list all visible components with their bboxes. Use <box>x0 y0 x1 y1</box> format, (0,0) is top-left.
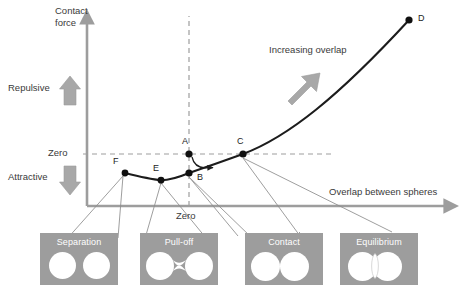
overlap-lens <box>340 233 418 285</box>
point-B <box>185 169 192 176</box>
point-A <box>185 150 192 157</box>
panel-equilibrium: Equilibrium <box>340 233 418 285</box>
point-label-B: B <box>197 172 203 182</box>
attractive-label: Attractive <box>8 172 48 183</box>
sphere-left <box>251 252 280 281</box>
panel-separation: Separation <box>40 233 118 285</box>
panel-caption-contact: Contact <box>245 237 323 247</box>
x-axis-label: Overlap between spheres <box>329 187 437 198</box>
curve-points <box>122 16 413 183</box>
sphere-right <box>83 252 110 279</box>
axes <box>87 22 446 206</box>
point-F <box>122 170 129 177</box>
sphere-left <box>49 252 76 279</box>
sphere-right <box>280 252 309 281</box>
leader-equilibrium-left <box>243 158 300 236</box>
zero-force-label: Zero <box>48 148 68 159</box>
panel-contact: Contact <box>245 233 323 285</box>
force-curve <box>125 20 409 180</box>
point-label-F: F <box>113 156 119 166</box>
neck-bridge <box>140 233 218 285</box>
point-label-A: A <box>182 136 188 146</box>
attractive-arrow-icon <box>60 166 81 195</box>
repulsive-label: Repulsive <box>8 83 50 94</box>
zero-overlap-label: Zero <box>176 211 196 222</box>
point-D <box>405 16 412 23</box>
y-axis-label-line2: force <box>55 18 76 29</box>
panel-pull-off: Pull-off <box>140 233 218 285</box>
point-label-E: E <box>153 163 159 173</box>
repulsive-arrow-icon <box>60 76 81 105</box>
point-E <box>158 177 165 184</box>
increasing-overlap-label: Increasing overlap <box>269 45 347 56</box>
leader-lines <box>66 158 392 242</box>
point-label-D: D <box>418 13 425 23</box>
increasing-overlap-arrow-icon <box>288 73 320 105</box>
point-label-C: C <box>237 136 244 146</box>
point-C <box>239 150 246 157</box>
panel-caption-separation: Separation <box>40 237 118 247</box>
y-axis-label-line1: Contact <box>55 6 88 17</box>
figure-canvas: Contact force Overlap between spheres Re… <box>0 0 464 304</box>
